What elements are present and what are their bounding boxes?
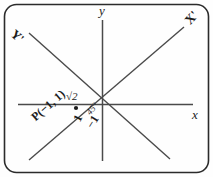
point-p-marker (74, 106, 78, 110)
figure-border (5, 5, 209, 173)
radius-length-label: √2 (66, 91, 78, 102)
geometry-figure: y x X' Y' √2 P(−1, 1) 1 −1 45° (0, 0, 213, 177)
y-axis-label: y (99, 4, 105, 17)
figure-canvas (0, 0, 213, 177)
x-axis-label: x (192, 108, 198, 121)
